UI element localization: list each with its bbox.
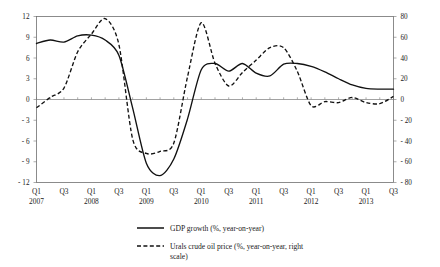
x-axis-quarter-label: Q3 [114,187,123,196]
x-axis-quarter-label: Q3 [279,187,288,196]
x-axis-year-label: 2009 [139,197,154,206]
right-axis-tick-label: - 20 [401,117,413,125]
left-axis-tick-label: 6 [26,55,30,63]
right-axis-tick-label: - 80 [401,179,413,187]
legend-label-urals-oil-price: Urals crude oil price (%, year-on-year, … [170,242,304,251]
right-axis-tick-label: 0 [401,96,405,104]
left-axis-tick-marks [34,17,37,183]
legend-label-gdp-growth: GDP growth (%, year-on-year) [170,224,265,233]
x-axis-year-label: 2008 [84,197,99,206]
x-axis-quarter-label: Q3 [224,187,233,196]
right-axis-tick-label: 60 [401,34,409,42]
right-axis-tick-label: - 60 [401,158,413,166]
x-axis-year-label: 2011 [249,197,264,206]
left-axis-tick-label: - 3 [22,117,30,125]
x-axis-quarter-label: Q1 [307,187,316,196]
x-axis-year-label: 2010 [194,197,209,206]
x-axis-quarter-label: Q3 [59,187,68,196]
chart-container: 129630- 3- 6- 9- 12 806040200- 20- 40- 6… [0,0,440,267]
x-axis-quarter-labels: Q1Q3Q1Q3Q1Q3Q1Q3Q1Q3Q1Q3Q1Q3 [32,187,398,196]
series-line-urals-oil-price [37,18,394,154]
left-axis-tick-labels: 129630- 3- 6- 9- 12 [18,13,30,187]
x-axis-quarter-label: Q1 [142,187,151,196]
x-axis-year-label: 2013 [359,197,374,206]
x-axis-year-labels: 2007200820092010201120122013 [29,197,374,206]
left-axis-tick-label: - 12 [18,179,30,187]
x-axis-quarter-label: Q1 [362,187,371,196]
right-axis-tick-label: 80 [401,13,409,21]
left-axis-tick-label: 12 [22,13,30,21]
left-axis-tick-label: 9 [26,34,30,42]
x-axis-quarter-label: Q1 [252,187,261,196]
left-axis-tick-label: - 9 [22,158,30,166]
x-axis-quarter-label: Q1 [87,187,96,196]
right-axis-tick-label: 20 [401,75,409,83]
legend-label-urals-oil-price-line2: scale) [170,252,188,261]
x-axis-quarter-label: Q1 [197,187,206,196]
x-axis-quarter-label: Q3 [169,187,178,196]
x-axis-quarter-label: Q3 [389,187,398,196]
x-axis-year-label: 2007 [29,197,44,206]
x-axis-quarter-label: Q3 [334,187,343,196]
left-axis-tick-label: - 6 [22,138,30,146]
left-axis-tick-label: 0 [26,96,30,104]
chart-canvas: 129630- 3- 6- 9- 12 806040200- 20- 40- 6… [0,0,440,267]
right-axis-tick-labels: 806040200- 20- 40- 60- 80 [401,13,413,187]
x-axis-quarter-label: Q1 [32,187,41,196]
left-axis-tick-label: 3 [26,75,30,83]
right-axis-tick-label: 40 [401,55,409,63]
series-line-gdp-growth [37,35,394,176]
right-axis-tick-marks [394,17,397,183]
x-axis-year-label: 2012 [304,197,319,206]
chart-legend: GDP growth (%, year-on-year)Urals crude … [137,224,304,261]
right-axis-tick-label: - 40 [401,138,413,146]
